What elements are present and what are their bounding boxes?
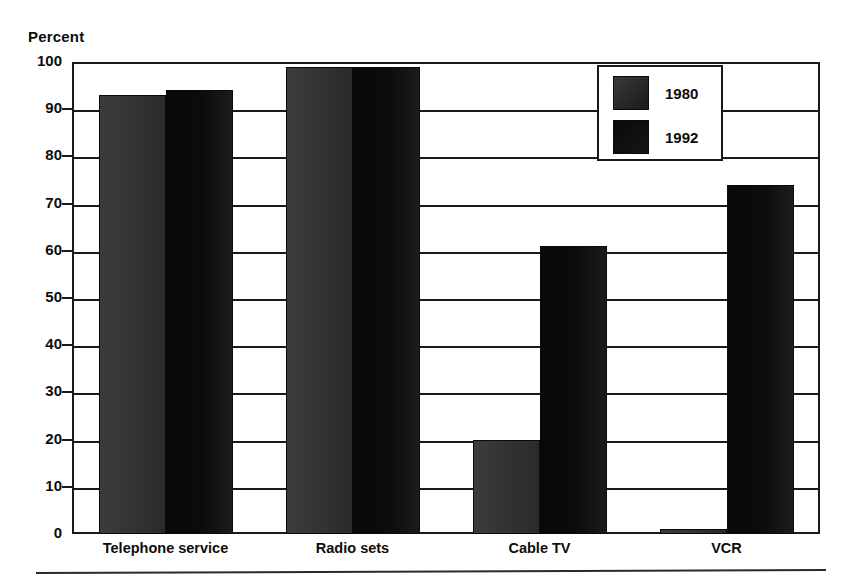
gridline <box>74 441 818 443</box>
gridline <box>74 205 818 207</box>
y-axis-tick-mark <box>62 155 72 157</box>
y-axis-tick-label: 30 <box>4 382 62 399</box>
y-axis-tick-label: 10 <box>4 477 62 494</box>
category-label: VCR <box>617 540 837 556</box>
legend-swatch-1980-icon <box>613 76 649 110</box>
y-axis-title: Percent <box>28 28 84 45</box>
y-axis-tick-mark <box>62 108 72 110</box>
chart-legend: 1980 1992 <box>597 65 723 161</box>
y-axis-tick-label: 80 <box>4 146 62 163</box>
gridline <box>74 393 818 395</box>
legend-entry-1992: 1992 <box>599 117 721 157</box>
y-axis-tick-label: 70 <box>4 194 62 211</box>
y-axis-tick-mark <box>62 250 72 252</box>
y-axis-tick-label: 50 <box>4 288 62 305</box>
legend-label-1992: 1992 <box>665 129 698 146</box>
y-axis-tick-label: 40 <box>4 335 62 352</box>
y-axis-tick-label: 60 <box>4 241 62 258</box>
y-axis-tick-mark <box>62 297 72 299</box>
legend-label-1980: 1980 <box>665 85 698 102</box>
gridline <box>74 346 818 348</box>
y-axis-tick-label: 20 <box>4 430 62 447</box>
y-axis-tick-mark <box>62 344 72 346</box>
page-divider-rule <box>36 569 826 574</box>
legend-entry-1980: 1980 <box>599 73 721 113</box>
y-axis-tick-label: 0 <box>4 524 62 541</box>
y-axis-tick-label: 100 <box>4 52 62 69</box>
legend-swatch-1992-icon <box>613 120 649 154</box>
bar-chart: Percent 0102030405060708090100 Telephone… <box>0 0 849 584</box>
y-axis-tick-mark <box>62 203 72 205</box>
y-axis-tick-mark <box>62 486 72 488</box>
y-axis-tick-mark <box>62 439 72 441</box>
gridline <box>74 299 818 301</box>
y-axis-tick-mark <box>62 391 72 393</box>
gridline <box>74 488 818 490</box>
y-axis-tick-label: 90 <box>4 99 62 116</box>
gridline <box>74 252 818 254</box>
